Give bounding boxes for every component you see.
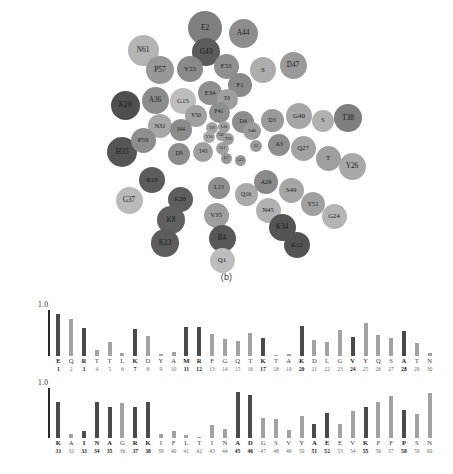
- residue-bubble-label: H35: [116, 148, 129, 155]
- bar-slot: [65, 388, 78, 438]
- bar-slot: [142, 310, 155, 356]
- bar: [351, 411, 355, 438]
- bar: [95, 402, 99, 438]
- y-axis-chart1: [48, 310, 50, 356]
- residue-bubble: L7: [221, 153, 232, 164]
- residue-letter: V: [346, 358, 359, 365]
- residue-letter: Y: [154, 358, 167, 365]
- residue-bubble-map: E2A44N61G43P57Y55E53SD47F1E34A36K20G15T6…: [0, 0, 453, 265]
- bar: [248, 333, 252, 356]
- bar: [402, 331, 406, 356]
- panel-b-caption: (b): [0, 272, 453, 282]
- residue-letter: L: [116, 358, 129, 365]
- bar: [287, 354, 291, 356]
- residue-bubble-label: S49: [286, 186, 297, 193]
- bar-slot: [154, 388, 167, 438]
- bar-slot: [423, 388, 436, 438]
- residue-bubble-label: E2: [201, 24, 209, 31]
- bar-slot: [308, 310, 321, 356]
- y-axis-chart2: [48, 388, 50, 438]
- residue-number: 57: [385, 449, 398, 455]
- residue-bubble-label: K12: [291, 241, 303, 248]
- residue-bubble: G40: [286, 103, 312, 129]
- bar: [95, 350, 99, 356]
- residue-letter: L: [321, 358, 334, 365]
- bar-slot: [52, 310, 65, 356]
- residue-letter: V: [282, 440, 295, 447]
- bar-slot: [65, 310, 78, 356]
- bar: [82, 328, 86, 356]
- bar: [300, 416, 304, 438]
- residue-bubble-label: G43: [200, 48, 213, 55]
- residue-bubble-label: Q1: [218, 256, 226, 263]
- bar-slot: [180, 388, 193, 438]
- bar: [133, 407, 137, 438]
- residue-bubble-label: A22: [236, 157, 243, 161]
- residue-bubble: V35: [204, 203, 229, 228]
- residue-number: 36: [116, 449, 129, 455]
- bar: [415, 414, 419, 438]
- bar-slot: [218, 388, 231, 438]
- bar-slot: [257, 388, 270, 438]
- residue-letter: E: [321, 440, 334, 447]
- residue-bubble: I44: [170, 119, 192, 141]
- bar: [184, 435, 188, 438]
- bar: [351, 337, 355, 356]
- residue-bubble-label: K8: [166, 216, 175, 223]
- residue-number: 32: [65, 449, 78, 455]
- residue-letter: A: [308, 440, 321, 447]
- residue-number: 53: [334, 449, 347, 455]
- bar: [376, 335, 380, 356]
- bar: [261, 418, 265, 438]
- residue-letter: N: [423, 440, 436, 447]
- bar-slot: [78, 388, 91, 438]
- bar: [325, 413, 329, 438]
- bar-slot: [231, 388, 244, 438]
- residue-bubble: R18: [139, 167, 165, 193]
- bar-slot: [385, 310, 398, 356]
- panel-b: E2A44N61G43P57Y55E53SD47F1E34A36K20G15T6…: [0, 0, 453, 272]
- residue-number: 31: [52, 449, 65, 455]
- residue-letters-chart1: EQRTTLKDYAMRFGQTKTAKDLGVYQSATN: [52, 358, 436, 365]
- residue-bubble-label: A3: [275, 142, 282, 148]
- residue-bubble-label: D9: [175, 151, 182, 157]
- bar-slot: [308, 388, 321, 438]
- residue-bubble-label: R4: [218, 234, 227, 241]
- residue-bubble-label: T6: [224, 96, 230, 102]
- residue-letter: Y: [295, 440, 308, 447]
- bar-slot: [167, 310, 180, 356]
- bar-slot: [346, 388, 359, 438]
- bar: [389, 396, 393, 438]
- residue-letter: D: [142, 358, 155, 365]
- bar-slot: [346, 310, 359, 356]
- y-axis-label-chart2: 1.0: [38, 378, 48, 387]
- residue-bubble-label: Y50: [191, 113, 201, 119]
- residue-letter: E: [52, 358, 65, 365]
- residue-numbers-chart2: 3132333435363738394041424344454647484950…: [52, 449, 436, 455]
- bar-slot: [282, 310, 295, 356]
- residue-bubble-label: P59: [138, 136, 149, 143]
- residue-letter: G: [116, 440, 129, 447]
- residue-letter: A: [65, 440, 78, 447]
- residue-bubble-label: S: [321, 118, 324, 124]
- residue-bubble-label: I39: [209, 125, 215, 129]
- bar: [248, 395, 252, 438]
- bar-slot: [410, 310, 423, 356]
- bars-chart2: [52, 388, 436, 438]
- bar-slot: [52, 388, 65, 438]
- bar: [223, 429, 227, 438]
- residue-number: 56: [372, 449, 385, 455]
- residue-bubble: T38: [334, 104, 362, 132]
- bar-chart-residues-1-30: 1.0 EQRTTLKDYAMRFGQTKTAKDLGVYQSATN 12345…: [0, 296, 453, 372]
- bar: [172, 431, 176, 438]
- residue-number: 45: [231, 449, 244, 455]
- residue-letter: Q: [231, 358, 244, 365]
- residue-letter: F: [167, 440, 180, 447]
- bar-slot: [398, 310, 411, 356]
- residue-letter: A: [167, 358, 180, 365]
- residue-letter: G: [218, 358, 231, 365]
- bar-slot: [270, 388, 283, 438]
- bar: [120, 353, 124, 356]
- residue-bubble-label: L13: [214, 185, 224, 191]
- residue-bubble-label: G15: [177, 97, 189, 104]
